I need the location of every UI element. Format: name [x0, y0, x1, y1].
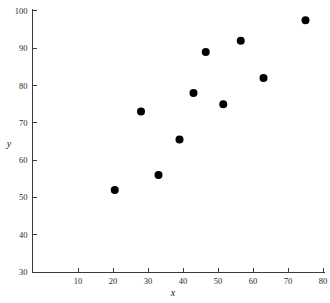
x-tick-label: 70	[284, 276, 293, 286]
y-tick-label: 60	[19, 155, 28, 165]
data-point	[219, 100, 227, 108]
x-tick-label: 60	[249, 276, 258, 286]
x-tick-label: 30	[144, 276, 153, 286]
x-axis-title: x	[170, 287, 176, 298]
plot-canvas: 102030405060708030405060708090100yx	[0, 0, 330, 303]
scatter-plot-figure: 102030405060708030405060708090100yx	[0, 0, 330, 303]
data-point	[302, 16, 310, 24]
x-tick-label: 40	[179, 276, 188, 286]
x-tick-label: 80	[319, 276, 328, 286]
y-tick-label: 50	[19, 192, 28, 202]
data-point	[137, 108, 145, 116]
y-tick-label: 70	[19, 118, 28, 128]
x-tick-label: 10	[74, 276, 83, 286]
data-point	[155, 171, 163, 179]
x-tick-label: 50	[214, 276, 223, 286]
y-tick-label: 80	[19, 81, 28, 91]
x-tick-label: 20	[109, 276, 118, 286]
data-point	[237, 37, 245, 45]
data-point	[111, 186, 119, 194]
data-point	[260, 74, 268, 82]
y-tick-label: 100	[15, 6, 28, 16]
y-tick-label: 30	[19, 267, 28, 277]
y-tick-label: 90	[19, 43, 28, 53]
y-tick-label: 40	[19, 230, 28, 240]
data-point	[190, 89, 198, 97]
y-axis-title: y	[6, 138, 12, 149]
data-point	[202, 48, 210, 56]
data-point	[176, 136, 184, 144]
